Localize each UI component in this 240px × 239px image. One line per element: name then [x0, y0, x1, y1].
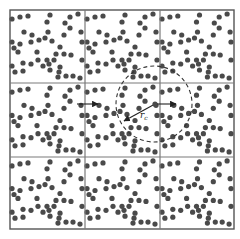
- particle: [186, 184, 191, 189]
- particle: [196, 208, 201, 213]
- particle: [167, 115, 172, 120]
- particle: [45, 103, 50, 108]
- particle: [25, 160, 30, 165]
- particle: [67, 172, 72, 177]
- particle: [61, 51, 66, 56]
- particle: [28, 113, 33, 118]
- particle: [34, 49, 39, 54]
- particle: [178, 186, 183, 191]
- particle: [205, 148, 210, 153]
- particle: [197, 86, 202, 91]
- particle: [35, 57, 40, 62]
- particle: [17, 14, 22, 19]
- particle: [142, 14, 147, 19]
- particle: [132, 191, 137, 196]
- particle: [136, 198, 141, 203]
- particle: [62, 20, 67, 25]
- particle: [171, 176, 176, 181]
- particle: [136, 51, 141, 56]
- particle: [121, 61, 126, 66]
- particle: [34, 123, 39, 128]
- particle: [154, 131, 159, 136]
- particle: [103, 135, 108, 140]
- particle: [79, 57, 84, 62]
- particle: [68, 52, 73, 57]
- particle: [207, 64, 212, 69]
- particle: [225, 11, 230, 16]
- particle: [137, 20, 142, 25]
- particle: [171, 29, 176, 34]
- particle: [28, 208, 33, 213]
- particle: [175, 13, 180, 18]
- particle: [154, 204, 159, 209]
- particle: [17, 41, 22, 46]
- particle: [55, 148, 60, 153]
- particle: [86, 119, 91, 124]
- particle: [185, 204, 190, 209]
- particle: [92, 14, 97, 19]
- particle: [178, 135, 183, 140]
- particle: [136, 32, 141, 37]
- particle: [67, 99, 72, 104]
- particle: [63, 220, 68, 225]
- particle: [217, 172, 222, 177]
- particle: [21, 29, 26, 34]
- particle: [154, 39, 159, 44]
- particle: [122, 141, 127, 146]
- particle: [78, 176, 83, 181]
- particle: [57, 211, 62, 216]
- particle: [130, 74, 135, 79]
- particle: [162, 143, 167, 148]
- particle: [217, 88, 222, 93]
- particle: [67, 25, 72, 30]
- particle: [211, 32, 216, 37]
- particle: [35, 204, 40, 209]
- particle: [205, 74, 210, 79]
- particle: [137, 167, 142, 172]
- particle: [103, 113, 108, 118]
- particle: [120, 176, 125, 181]
- particle: [142, 172, 147, 177]
- particle: [192, 109, 197, 114]
- particle: [57, 44, 62, 49]
- particle: [115, 137, 120, 142]
- particle: [138, 147, 143, 152]
- particle: [111, 37, 116, 42]
- particle: [228, 176, 233, 181]
- particle: [103, 208, 108, 213]
- particle: [167, 41, 172, 46]
- particle: [25, 87, 30, 92]
- particle: [178, 39, 183, 44]
- particle: [128, 198, 133, 203]
- particle: [142, 99, 147, 104]
- particle: [217, 99, 222, 104]
- particle: [195, 176, 200, 181]
- particle: [227, 149, 232, 154]
- particle: [137, 94, 142, 99]
- particle: [201, 204, 206, 209]
- particle: [40, 137, 45, 142]
- particle: [228, 186, 233, 191]
- particle: [95, 215, 100, 220]
- particle: [161, 119, 166, 124]
- particle: [211, 179, 216, 184]
- particle: [132, 211, 137, 216]
- particle: [178, 61, 183, 66]
- particle: [162, 69, 167, 74]
- particle: [92, 88, 97, 93]
- arrows: [77, 101, 176, 121]
- particle: [195, 29, 200, 34]
- particle: [87, 143, 92, 148]
- particle: [46, 61, 51, 66]
- particle: [227, 222, 232, 227]
- radius-subscript: c: [144, 114, 148, 121]
- particle: [124, 112, 129, 117]
- particle: [199, 38, 204, 43]
- particle: [110, 204, 115, 209]
- particle: [197, 141, 202, 146]
- particle: [218, 199, 223, 204]
- particle: [185, 131, 190, 136]
- particle: [207, 118, 212, 123]
- particle: [28, 135, 33, 140]
- particle: [220, 147, 225, 152]
